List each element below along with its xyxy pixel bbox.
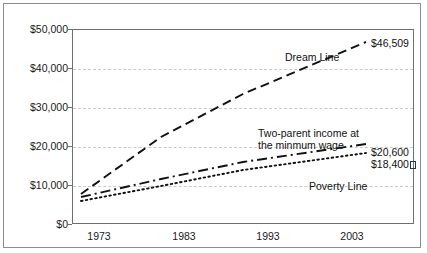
series-line-dream	[81, 42, 366, 194]
xtick-label-1983: 1983	[163, 230, 205, 242]
ytick-mark-0	[68, 224, 72, 225]
annotation-two-parent-line-1: Two-parent income at	[258, 127, 359, 139]
ytick-label-20000: $20,000	[12, 141, 68, 152]
ytick-label-10000: $10,000	[12, 180, 68, 191]
endpoint-value-poverty: $18,400	[371, 158, 416, 170]
endpoint-value-two-parent: $20,600	[371, 146, 409, 158]
xtick-label-1993: 1993	[247, 230, 289, 242]
annotation-two-parent-line-2: the minmum wage	[258, 139, 344, 151]
annotation-poverty-line: Poverty Line	[309, 180, 367, 192]
endpoint-value-poverty-text: $18,400	[371, 158, 409, 170]
plot-area: Dream Line Two-parent income at the minm…	[72, 29, 414, 224]
series-lines	[73, 30, 415, 225]
missing-glyph-box-icon	[410, 161, 416, 169]
xtick-label-1973: 1973	[78, 230, 120, 242]
endpoint-value-dream: $46,509	[371, 37, 409, 49]
outer-frame-border: $50,000 $40,000 $30,000 $20,000 $10,000 …	[3, 3, 421, 248]
ytick-label-30000: $30,000	[12, 102, 68, 113]
annotation-dream-line: Dream Line	[285, 51, 339, 63]
ytick-label-0: $0	[12, 219, 68, 230]
ytick-label-50000: $50,000	[12, 24, 68, 35]
figure-canvas: $50,000 $40,000 $30,000 $20,000 $10,000 …	[12, 12, 420, 247]
ytick-label-40000: $40,000	[12, 63, 68, 74]
series-line-poverty	[81, 153, 366, 201]
xtick-label-2003: 2003	[331, 230, 373, 242]
chart-screenshot: $50,000 $40,000 $30,000 $20,000 $10,000 …	[0, 0, 427, 253]
